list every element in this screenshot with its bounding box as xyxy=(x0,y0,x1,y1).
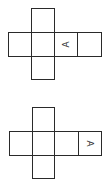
net-face xyxy=(31,32,55,57)
net-face xyxy=(32,107,55,132)
net-face xyxy=(8,32,32,57)
face-letter-label: A xyxy=(62,40,71,49)
face-letter-label: A xyxy=(85,139,94,148)
cube-net-1: A xyxy=(0,0,112,95)
net-face xyxy=(9,131,33,156)
net-face xyxy=(31,56,55,80)
net-face xyxy=(77,32,102,57)
net-face xyxy=(32,155,55,179)
cube-net-2: A xyxy=(0,95,112,189)
net-face xyxy=(54,131,79,156)
net-face xyxy=(31,8,55,33)
net-face xyxy=(32,131,55,156)
